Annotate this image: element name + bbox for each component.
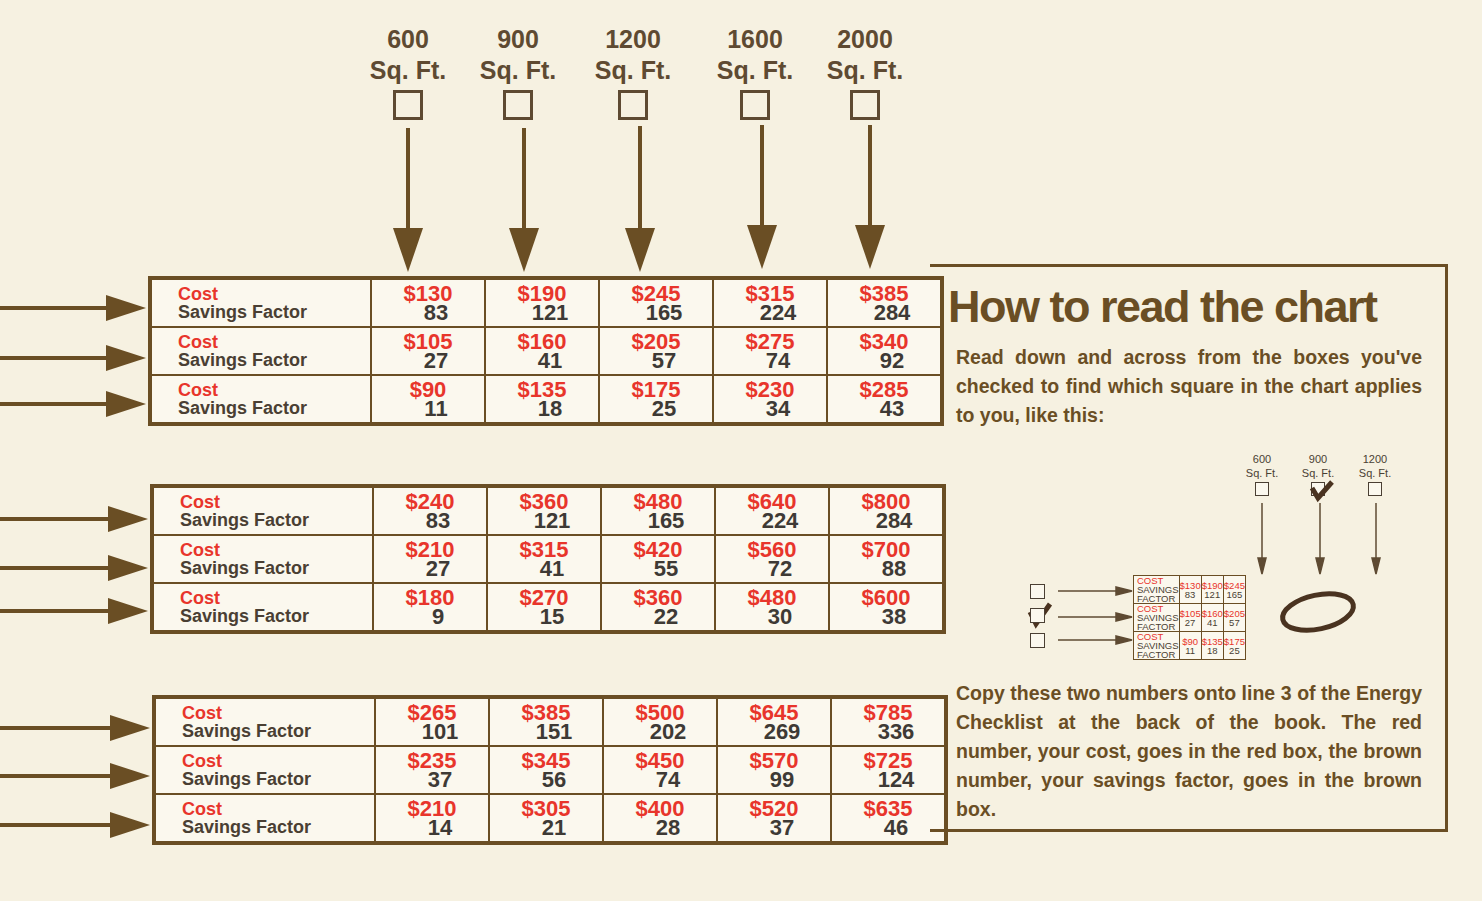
table-row: COSTSAVINGS FACTOR $13083 $190121 $24516… (1134, 576, 1246, 604)
example-table: COSTSAVINGS FACTOR $13083 $190121 $24516… (1133, 575, 1246, 660)
example-row-checkbox (1030, 584, 1045, 599)
check-mark-icon (1312, 482, 1332, 498)
circled-answer-icon (1279, 588, 1356, 636)
table-row: COSTSAVINGS FACTOR $10527 $16041 $20557 (1134, 604, 1246, 632)
example-row-checkbox (1030, 633, 1045, 648)
example-arrows-icon (0, 0, 1482, 901)
example-row-checkbox-checked (1030, 608, 1045, 623)
table-row: COSTSAVINGS FACTOR $9011 $13518 $17525 (1134, 632, 1246, 660)
